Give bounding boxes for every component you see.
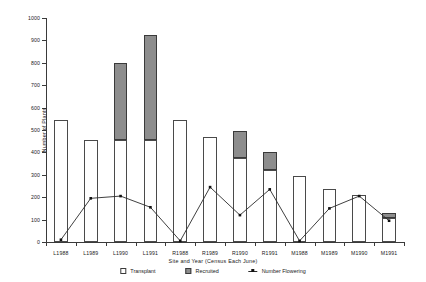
line-marker-R1991[interactable] xyxy=(268,188,271,191)
x-tick xyxy=(225,242,226,246)
x-tick-label-M1989: M1989 xyxy=(321,250,338,256)
y-tick-label-400: 400 xyxy=(31,149,40,155)
x-tick xyxy=(195,242,196,246)
legend-label: Number Flowering xyxy=(262,268,306,274)
x-tick-label-R1989: R1989 xyxy=(202,250,218,256)
chart-figure: 01002003004005006007008009001000 L1988L1… xyxy=(0,0,426,282)
x-tick xyxy=(404,242,405,246)
x-tick-label-L1991: L1991 xyxy=(143,250,158,256)
x-tick xyxy=(106,242,107,246)
x-tick-label-R1990: R1990 xyxy=(232,250,248,256)
line-marker-M1989[interactable] xyxy=(328,207,331,210)
line-marker-M1991[interactable] xyxy=(388,219,391,222)
x-tick-label-L1988: L1988 xyxy=(53,250,68,256)
y-tick-label-100: 100 xyxy=(31,217,40,223)
y-tick-label-700: 700 xyxy=(31,82,40,88)
x-tick-label-R1991: R1991 xyxy=(262,250,278,256)
white-square-icon xyxy=(120,268,126,274)
x-tick xyxy=(76,242,77,246)
plot-area: 01002003004005006007008009001000 L1988L1… xyxy=(46,18,404,242)
y-axis-title: Number of Plants xyxy=(41,108,47,153)
x-tick xyxy=(136,242,137,246)
legend-item-number-flowering[interactable]: Number Flowering xyxy=(249,268,306,274)
y-tick-label-1000: 1000 xyxy=(28,15,40,21)
legend-label: Transplant xyxy=(130,268,155,274)
legend-item-transplant[interactable]: Transplant xyxy=(120,268,155,274)
y-tick-label-500: 500 xyxy=(31,127,40,133)
line-marker-R1988[interactable] xyxy=(179,240,182,243)
x-tick xyxy=(285,242,286,246)
line-marker-L1990[interactable] xyxy=(119,195,122,198)
y-tick-label-900: 900 xyxy=(31,37,40,43)
x-tick xyxy=(46,242,47,246)
x-tick-label-R1988: R1988 xyxy=(172,250,188,256)
gray-square-icon xyxy=(186,268,192,274)
x-tick xyxy=(315,242,316,246)
x-axis-title: Site and Year (Census Each June) xyxy=(169,258,258,264)
y-tick-label-200: 200 xyxy=(31,194,40,200)
line-marker-L1989[interactable] xyxy=(89,197,92,200)
x-tick xyxy=(374,242,375,246)
x-tick-label-M1988: M1988 xyxy=(291,250,308,256)
x-tick xyxy=(344,242,345,246)
y-tick-label-300: 300 xyxy=(31,172,40,178)
y-tick-label-600: 600 xyxy=(31,105,40,111)
chart-legend: TransplantRecruitedNumber Flowering xyxy=(120,268,305,274)
line-marker-L1988[interactable] xyxy=(60,238,63,241)
line-marker-R1989[interactable] xyxy=(209,186,212,189)
x-tick xyxy=(165,242,166,246)
legend-item-recruited[interactable]: Recruited xyxy=(186,268,219,274)
line-marker-L1991[interactable] xyxy=(149,206,152,209)
number-flowering-line xyxy=(46,18,404,242)
line-marker-M1988[interactable] xyxy=(298,240,301,243)
y-tick-label-800: 800 xyxy=(31,60,40,66)
y-tick-label-0: 0 xyxy=(37,239,40,245)
x-tick xyxy=(255,242,256,246)
line-path xyxy=(61,187,389,241)
line-marker-R1990[interactable] xyxy=(239,214,242,217)
line-marker-M1990[interactable] xyxy=(358,195,361,198)
x-tick-label-M1991: M1991 xyxy=(381,250,398,256)
x-tick-label-L1989: L1989 xyxy=(83,250,98,256)
x-tick-label-M1990: M1990 xyxy=(351,250,368,256)
line-marker-icon xyxy=(249,268,258,274)
x-tick-label-L1990: L1990 xyxy=(113,250,128,256)
legend-label: Recruited xyxy=(196,268,219,274)
